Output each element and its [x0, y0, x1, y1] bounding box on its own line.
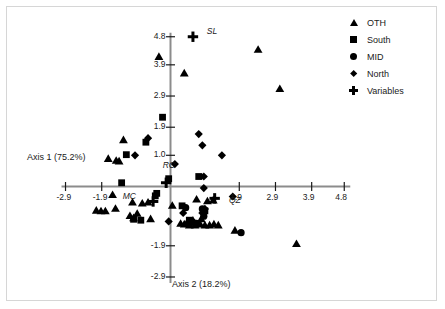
- plus-icon: [347, 84, 363, 97]
- legend-item-south: South: [347, 31, 437, 48]
- legend-item-oth: OTH: [347, 14, 437, 31]
- data-point-oth: [192, 195, 201, 203]
- y-tick-label: 1.9: [144, 121, 166, 131]
- data-point-south: [123, 151, 130, 158]
- data-point-north: [218, 151, 226, 159]
- y-tick-label: 1.0: [144, 149, 166, 159]
- data-point-oth: [146, 215, 155, 223]
- data-point-oth: [119, 136, 128, 144]
- variable-label-mc: MC: [123, 191, 136, 201]
- y-tick-label: -1.9: [144, 240, 166, 250]
- axis-2-title: Axis 2 (18.2%): [172, 279, 231, 289]
- legend-item-mid: MID: [347, 48, 437, 65]
- variable-label-sl: SL: [207, 26, 217, 36]
- data-point-south: [130, 216, 137, 223]
- variable-label-rc: RC: [163, 160, 175, 170]
- data-point-variables: [152, 196, 155, 206]
- data-point-oth: [292, 240, 301, 248]
- data-point-variables: [165, 178, 168, 188]
- legend-label-variables: Variables: [367, 86, 404, 96]
- data-point-south: [153, 190, 160, 197]
- data-point-mid: [193, 220, 200, 227]
- y-tick-label: -2.9: [144, 271, 166, 281]
- data-point-south: [159, 114, 166, 121]
- data-point-south: [137, 217, 144, 224]
- data-point-variables: [191, 32, 194, 42]
- axis-1-title: Axis 1 (75.2%): [27, 152, 86, 162]
- data-point-mid: [237, 229, 244, 236]
- legend-label-oth: OTH: [367, 18, 386, 28]
- legend: OTH South MID North Variables: [347, 14, 437, 99]
- x-tick-label: -1.9: [93, 192, 108, 202]
- chart-page: Axis 1 (75.2%) Axis 2 (18.2%) OTH South …: [0, 0, 445, 309]
- legend-label-south: South: [367, 35, 391, 45]
- data-point-oth: [180, 69, 189, 77]
- data-point-north: [165, 217, 173, 225]
- x-tick-label: 2.9: [266, 192, 278, 202]
- data-point-oth: [168, 201, 177, 209]
- data-point-oth: [111, 204, 120, 212]
- square-icon: [347, 33, 363, 46]
- y-tick-label: 2.9: [144, 90, 166, 100]
- legend-label-mid: MID: [367, 52, 384, 62]
- data-point-north: [195, 130, 203, 138]
- x-tick-label: 4.8: [335, 192, 347, 202]
- data-point-oth: [108, 191, 117, 199]
- legend-item-north: North: [347, 65, 437, 82]
- x-tick-label: -2.9: [57, 192, 72, 202]
- legend-item-variables: Variables: [347, 82, 437, 99]
- data-point-variables: [213, 193, 216, 203]
- data-point-north: [131, 151, 139, 159]
- data-point-mid: [186, 220, 193, 227]
- data-point-north: [200, 184, 208, 192]
- y-tick-label: 4.8: [144, 31, 166, 41]
- data-point-south: [118, 179, 125, 186]
- legend-label-north: North: [367, 69, 389, 79]
- y-tick-label: 3.9: [144, 59, 166, 69]
- circle-icon: [347, 50, 363, 63]
- variable-label-qz: QZ: [229, 195, 241, 205]
- data-point-oth: [104, 154, 113, 162]
- data-point-oth: [275, 84, 284, 92]
- diamond-icon: [347, 67, 363, 80]
- data-point-north: [198, 141, 206, 149]
- data-point-oth: [254, 45, 263, 53]
- x-tick-label: 3.9: [303, 192, 315, 202]
- triangle-icon: [347, 16, 363, 29]
